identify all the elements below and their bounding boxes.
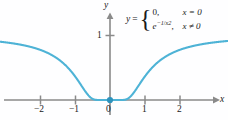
formula-case1-condition: x = 0 [183, 7, 202, 17]
formula-left-brace: { [140, 10, 152, 28]
x-tick-label-pos2: 2 [177, 105, 182, 115]
function-graph-figure: y x 1 −2 −1 0 1 2 y = { 0, x = 0 e−1/x2,… [0, 0, 228, 120]
y-axis-label: y [104, 1, 108, 11]
formula-case1-comma: , [157, 7, 159, 17]
formula-case-zero: 0, x = 0 [153, 7, 202, 17]
function-curve [0, 41, 228, 100]
formula-case2-exponent-numerator: −1 [157, 19, 164, 26]
x-tick-label-pos1: 1 [142, 105, 147, 115]
formula-lhs: y [126, 14, 130, 24]
x-tick-label-neg1: −1 [69, 105, 79, 115]
origin-point-marker [107, 97, 113, 103]
x-axis-arrow-icon [213, 97, 220, 104]
formula-case2-exponent: −1/x2 [157, 19, 172, 26]
x-tick-label-zero: 0 [106, 105, 111, 115]
formula-cases: 0, x = 0 e−1/x2, x ≠ 0 [153, 7, 202, 31]
y-axis-arrow-icon [107, 13, 114, 20]
x-axis-label: x [220, 95, 224, 105]
formula-case-nonzero: e−1/x2, x ≠ 0 [153, 19, 202, 31]
formula-case2-comma: , [171, 21, 173, 31]
formula-equals-sign: = [132, 14, 137, 24]
function-definition-annotation: y = { 0, x = 0 e−1/x2, x ≠ 0 [126, 7, 202, 31]
formula-case1-value-group: 0, [153, 7, 183, 17]
x-tick-label-neg2: −2 [34, 105, 44, 115]
formula-case2-value-group: e−1/x2, [153, 19, 183, 31]
formula-case2-condition: x ≠ 0 [183, 21, 201, 31]
y-tick-label-1: 1 [97, 31, 102, 41]
